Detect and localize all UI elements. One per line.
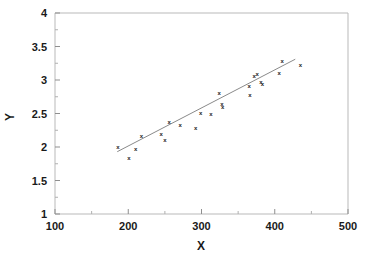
y-axis-ticks	[55, 13, 60, 214]
x-tick-label: 200	[119, 220, 137, 232]
y-tick-label: 1	[41, 208, 47, 220]
data-point-marker: x	[277, 70, 281, 76]
y-axis-title: Y	[3, 113, 17, 121]
regression-line	[117, 59, 295, 151]
scatter-chart: 11.522.533.54 100200300400500 xxxxxxxxxx…	[0, 0, 369, 258]
data-point-marker: x	[221, 104, 225, 110]
y-tick-label: 4	[41, 7, 48, 19]
x-tick-labels: 100200300400500	[46, 220, 357, 232]
x-tick-label: 300	[192, 220, 210, 232]
data-points: xxxxxxxxxxxxxxxxxxxxxxx	[116, 58, 302, 160]
data-point-marker: x	[209, 111, 213, 117]
x-tick-label: 500	[339, 220, 357, 232]
x-tick-label: 100	[46, 220, 64, 232]
chart-canvas: 11.522.533.54 100200300400500 xxxxxxxxxx…	[0, 0, 369, 258]
y-tick-label: 2	[41, 141, 47, 153]
data-point-marker: x	[199, 110, 203, 116]
data-point-marker: x	[134, 146, 138, 152]
y-tick-labels: 11.522.533.54	[32, 7, 48, 220]
data-point-marker: x	[261, 81, 265, 87]
data-point-marker: x	[280, 58, 284, 64]
data-point-marker: x	[299, 62, 303, 68]
data-point-marker: x	[163, 137, 167, 143]
x-tick-label: 400	[266, 220, 284, 232]
data-point-marker: x	[255, 71, 259, 77]
data-point-marker: x	[247, 83, 251, 89]
data-point-marker: x	[248, 92, 252, 98]
x-axis-title: X	[197, 239, 205, 253]
y-tick-label: 3	[41, 74, 47, 86]
y-tick-label: 2.5	[32, 108, 47, 120]
data-point-marker: x	[217, 90, 221, 96]
data-point-marker: x	[127, 155, 131, 161]
data-point-marker: x	[116, 144, 120, 150]
data-point-marker: x	[179, 122, 183, 128]
data-point-marker: x	[194, 125, 198, 131]
y-tick-label: 3.5	[32, 41, 47, 53]
x-axis-ticks	[55, 209, 348, 214]
y-tick-label: 1.5	[32, 175, 47, 187]
